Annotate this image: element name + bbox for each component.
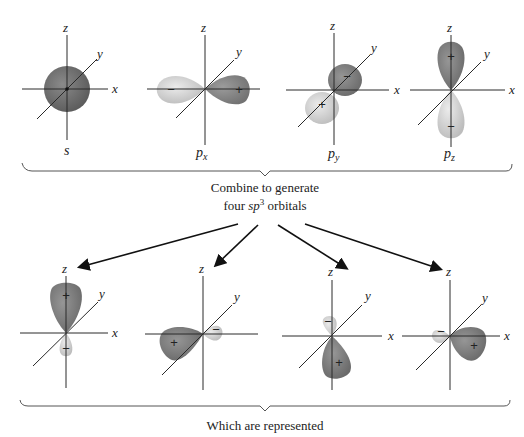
- y-axis-label: y: [97, 286, 105, 301]
- y-axis-label: y: [482, 46, 490, 61]
- sp3-2-minor-sign: −: [212, 322, 220, 337]
- y-axis-label: y: [480, 290, 488, 305]
- x-axis-label: x: [508, 82, 515, 97]
- y-axis-label: y: [363, 288, 371, 303]
- px-orbital: z y − + px: [147, 20, 260, 162]
- z-axis-label: z: [198, 261, 204, 276]
- sp3-2-major-sign: +: [170, 335, 178, 350]
- x-axis-label: x: [111, 325, 118, 340]
- px-positive-lobe: [205, 75, 250, 104]
- z-axis-label: z: [200, 20, 206, 35]
- sp3-hybridization-diagram: z x y s z y − + px z x y − + py z: [0, 0, 524, 437]
- arrow-to-sp3-2: [216, 225, 258, 265]
- sp3-4-major-lobe: [450, 327, 486, 361]
- orbital-label-py: py: [327, 146, 340, 163]
- pz-negative-sign: −: [447, 119, 455, 134]
- x-axis-label: x: [387, 328, 394, 343]
- z-axis-label: z: [327, 264, 333, 279]
- z-axis-label: z: [446, 20, 452, 35]
- arrow-to-sp3-4: [305, 224, 440, 269]
- py-negative-sign: −: [343, 69, 351, 84]
- z-axis-label: z: [445, 264, 451, 279]
- sp3-1-minor-sign: −: [62, 341, 70, 356]
- px-negative-lobe: [157, 76, 205, 104]
- px-negative-sign: −: [167, 82, 175, 97]
- py-positive-sign: +: [318, 97, 326, 112]
- y-axis-label: y: [232, 289, 240, 304]
- py-orbital: z x y − + py: [286, 18, 400, 163]
- y-axis-label: y: [95, 46, 103, 61]
- sp3-3-minor-sign: −: [324, 314, 332, 329]
- arrow-to-sp3-3: [278, 225, 346, 268]
- y-axis-label: y: [369, 40, 377, 55]
- z-axis-label: z: [62, 20, 68, 35]
- sp3-3-major-sign: +: [335, 355, 343, 370]
- top-brace: [22, 163, 512, 176]
- pz-positive-sign: +: [447, 49, 455, 64]
- sp3-orbital-1: z x y + −: [20, 261, 118, 388]
- combine-caption-line2: four sp3 orbitals: [223, 197, 306, 213]
- px-positive-sign: +: [235, 82, 243, 97]
- s-orbital: z x y s: [22, 20, 118, 158]
- pz-orbital: z x y + − pz: [410, 20, 515, 163]
- x-axis-label: x: [111, 81, 118, 96]
- sp3-4-minor-sign: −: [437, 324, 445, 339]
- orbital-label-pz: pz: [443, 146, 455, 163]
- y-axis-label: y: [234, 44, 242, 59]
- sp3-orbital-3: z x y + −: [282, 264, 394, 390]
- orbital-label-px: px: [195, 145, 208, 162]
- arrow-to-sp3-1: [80, 224, 238, 267]
- sp3-1-major-sign: +: [62, 288, 70, 303]
- bottom-brace: [20, 400, 510, 411]
- sp3-4-major-sign: +: [470, 338, 478, 353]
- sp3-orbital-2: z y + −: [145, 261, 258, 390]
- bottom-caption: Which are represented: [207, 418, 324, 433]
- combine-caption-line1: Combine to generate: [211, 180, 320, 195]
- x-axis-label: x: [503, 328, 510, 343]
- z-axis-label: z: [329, 18, 335, 33]
- orbital-label-s: s: [64, 143, 70, 158]
- origin-dot: [65, 87, 69, 91]
- x-axis-label: x: [393, 82, 400, 97]
- sp3-orbital-4: z x y + −: [402, 264, 510, 390]
- z-axis-label: z: [61, 261, 67, 276]
